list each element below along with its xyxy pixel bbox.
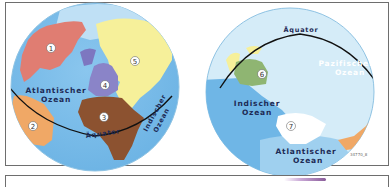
continent-number: 1 [49,45,53,53]
hemisphere-maps: 1 2 3 4 5 Atlantischer Ozean Äquator Ind… [0,0,392,187]
left-globe: 1 2 3 4 5 Atlantischer Ozean Äquator Ind… [10,3,179,171]
label-atlantic: Atlantischer [275,147,336,156]
continent-number: 5 [133,58,137,66]
label-atlantic-ozean: Ozean [293,156,323,165]
figure-credit: 34770_8 [350,152,367,157]
label-atlantic-ozean: Ozean [41,95,71,104]
continent-number: 4 [103,82,108,90]
bottom-panel [5,175,389,187]
decorative-strip [284,178,326,181]
continent-number: 7 [289,123,293,131]
continent-number: 2 [31,123,35,131]
label-pacific-ozean: Ozean [335,68,365,77]
label-indian: Indischer [234,99,280,108]
label-indian-ozean: Ozean [242,108,272,117]
continent-number: 6 [260,71,265,79]
label-atlantic: Atlantischer [25,86,86,95]
continent-number: 3 [102,114,106,122]
label-pacific: Pazifischer [319,59,374,68]
label-equator: Äquator [283,25,318,34]
